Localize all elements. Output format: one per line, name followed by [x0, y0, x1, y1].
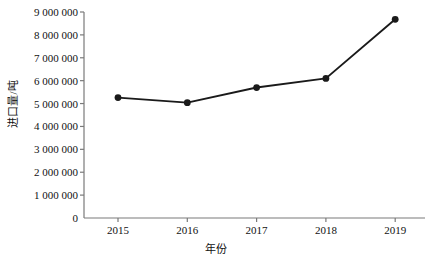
x-axis-tick-label: 2015 — [107, 225, 129, 236]
x-axis-title: 年份 — [0, 240, 432, 256]
import-volume-line-chart: 01 000 0002 000 0003 000 0004 000 0005 0… — [0, 0, 432, 264]
x-axis-tick-label: 2018 — [315, 225, 337, 236]
data-point-marker — [184, 99, 191, 106]
axis-lines — [84, 12, 425, 218]
x-axis-tick-label: 2016 — [176, 225, 198, 236]
x-axis-tick-label: 2017 — [246, 225, 268, 236]
plot-area — [0, 0, 432, 264]
x-axis-tick-marks — [118, 218, 395, 222]
data-point-marker — [253, 84, 260, 91]
data-point-markers — [115, 16, 399, 106]
data-point-marker — [323, 75, 330, 82]
data-point-marker — [115, 94, 122, 101]
data-point-marker — [392, 16, 399, 23]
x-axis-tick-label: 2019 — [384, 225, 406, 236]
